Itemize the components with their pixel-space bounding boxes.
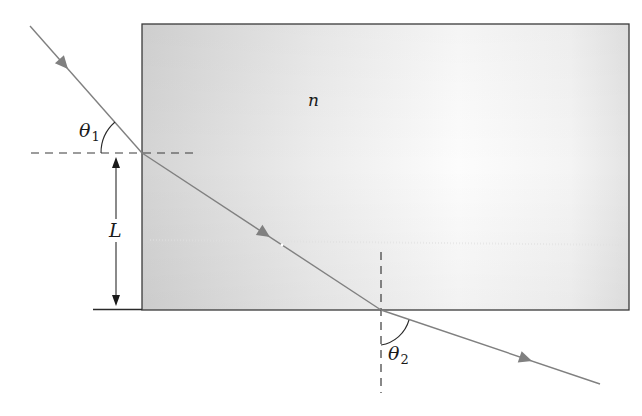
refraction-diagram: n L θ1 θ2: [0, 0, 642, 416]
theta2-subscript: 2: [400, 352, 408, 367]
theta2-symbol: θ: [388, 342, 399, 364]
label-L-text: L: [109, 219, 122, 241]
theta2-label: θ2: [388, 344, 409, 366]
diagram-svg: [0, 0, 642, 416]
angle-arc-theta1: [101, 122, 115, 153]
arrow-down-icon: [112, 295, 120, 306]
slab: [142, 24, 629, 310]
arrowhead-icon: [518, 351, 534, 367]
theta1-subscript: 1: [91, 129, 99, 144]
label-n-text: n: [308, 90, 319, 110]
arrow-up-icon: [112, 157, 120, 168]
exit-ray: [381, 310, 600, 384]
height-label: L: [109, 219, 122, 242]
theta1-symbol: θ: [79, 119, 90, 141]
refractive-index-label: n: [308, 92, 319, 109]
theta1-label: θ1: [79, 121, 100, 143]
